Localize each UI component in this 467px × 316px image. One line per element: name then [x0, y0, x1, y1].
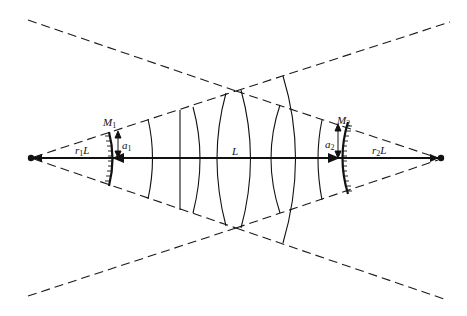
ray-left-cone-top [34, 91, 236, 157]
label-a2: a2 [325, 139, 335, 152]
wavefront-7 [283, 76, 296, 243]
wavefronts [148, 76, 322, 243]
right-arrowhead [430, 154, 439, 162]
ray-outer-bottom-left [28, 228, 236, 296]
aperture-a1-arrow [115, 131, 121, 158]
label-r1l: r1L [75, 145, 89, 158]
ray-outer-top-right [236, 22, 450, 91]
ray-left-cone-bottom [34, 159, 236, 228]
resonator-diagram: M1 a1 r1L L M2 a2 r2L [0, 0, 467, 316]
label-r2l: r2L [372, 145, 386, 158]
wavefront-8 [318, 120, 322, 200]
ray-outer-top-left [28, 20, 236, 91]
ray-right-cone-bottom [236, 160, 438, 228]
ray-outer-bottom-right [236, 228, 447, 300]
label-length: L [232, 146, 238, 157]
wavefront-3 [193, 107, 200, 213]
aperture-a2-arrow [335, 124, 341, 158]
dashed-ray-lines [28, 20, 450, 300]
left-arrowhead [33, 154, 42, 162]
label-a1: a1 [122, 140, 132, 153]
diagram-canvas [0, 0, 467, 316]
wavefront-4 [217, 93, 226, 226]
label-m1: M1 [103, 117, 116, 130]
label-m2: M2 [337, 115, 350, 128]
